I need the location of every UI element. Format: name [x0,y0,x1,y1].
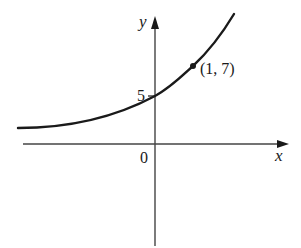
graph: y x 0 5 (1, 7) [0,0,301,248]
x-axis [23,140,289,148]
y-axis [151,16,159,246]
point-label: (1, 7) [200,60,235,78]
x-axis-label: x [274,146,283,165]
point-marker [190,63,196,69]
y-axis-arrow-icon [151,16,159,29]
y-intercept-label: 5 [137,87,145,104]
origin-label: 0 [140,149,148,166]
y-axis-label: y [137,12,147,31]
